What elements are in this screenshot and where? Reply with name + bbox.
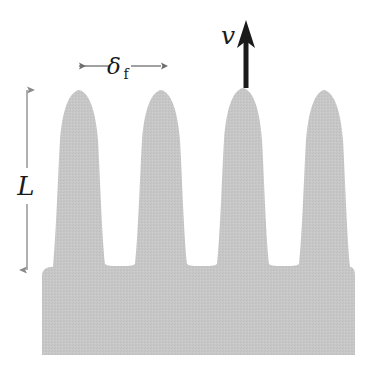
length-label: L	[16, 171, 34, 201]
thickness-label-subscript: f	[123, 66, 130, 82]
flame-front-outline	[42, 88, 355, 355]
length-dimension: L	[14, 90, 40, 270]
thickness-label-symbol: δ	[107, 53, 121, 79]
velocity-label: v	[221, 21, 235, 50]
thickness-dimension: δ f	[79, 53, 161, 82]
flame-front-shape	[42, 88, 355, 355]
diagram-canvas: L δ f v	[0, 0, 381, 380]
velocity-annotation: v	[221, 20, 255, 88]
velocity-arrow-shaft	[244, 40, 249, 88]
flame-front-diagram: L δ f v	[0, 0, 381, 380]
